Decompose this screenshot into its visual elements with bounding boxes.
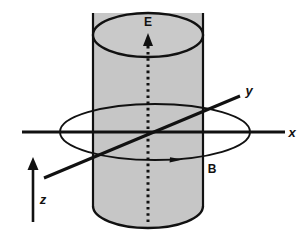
- z-axis: [28, 157, 39, 222]
- x-axis-label: x: [287, 125, 296, 140]
- diagram-canvas: E B x y z: [0, 0, 308, 234]
- magnetic-field-label: B: [208, 162, 217, 176]
- z-axis-label: z: [39, 192, 47, 207]
- z-axis-arrowhead: [28, 157, 39, 170]
- caption-text: [0, 224, 308, 234]
- electric-field-label: E: [144, 15, 152, 29]
- physics-field-diagram: E B x y z: [0, 0, 308, 234]
- y-axis-label: y: [244, 83, 253, 98]
